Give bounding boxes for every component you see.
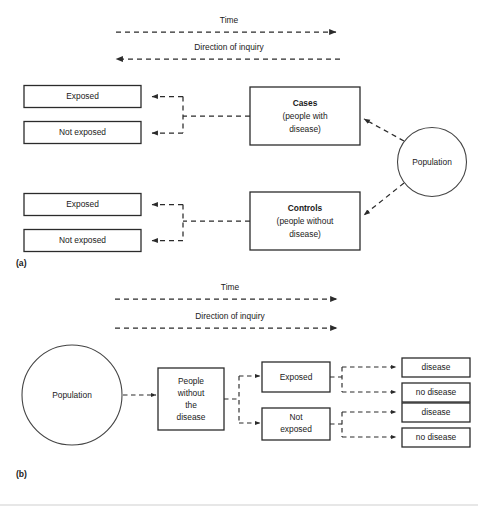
- panel-b-cohort-line1: People: [178, 376, 204, 386]
- figure-container: Time Direction of inquiry Exposed Not ex…: [0, 0, 478, 508]
- panel-a-exposure-label-3: Exposed: [66, 199, 99, 209]
- panel-a-exposure-label-2: Not exposed: [59, 127, 106, 137]
- panel-a-population-label: Population: [412, 157, 452, 167]
- panel-b-outcome-label-3: disease: [422, 407, 451, 417]
- panel-b-exposure-box-not-exposed: Not exposed: [262, 408, 330, 440]
- panel-b-outcome-box-disease-not-exposed: disease: [402, 403, 470, 422]
- panel-b-outcome-box-no-disease-not-exposed: no disease: [402, 428, 470, 447]
- panel-b-cohort-line4: disease: [177, 412, 206, 422]
- panel-a-exposure-box-exposed-top: Exposed: [24, 86, 141, 108]
- panel-a-exposure-label-4: Not exposed: [59, 235, 106, 245]
- panel-b-population-label: Population: [52, 390, 92, 400]
- panel-b-not-exposed-line1: Not: [289, 412, 303, 422]
- panel-a-exposure-box-not-exposed-bottom: Not exposed: [24, 230, 141, 252]
- panel-b-time-label: Time: [221, 282, 240, 292]
- panel-b-inquiry-label: Direction of inquiry: [195, 311, 265, 321]
- panel-b-outcome-box-no-disease-exposed: no disease: [402, 383, 470, 402]
- panel-b-outcome-box-disease-exposed: disease: [402, 358, 470, 377]
- panel-b-outcome-label-2: no disease: [416, 387, 457, 397]
- panel-a-exposure-box-exposed-bottom: Exposed: [24, 194, 141, 216]
- study-design-diagram: Time Direction of inquiry Exposed Not ex…: [0, 0, 478, 508]
- panel-a-exposure-label-1: Exposed: [66, 91, 99, 101]
- panel-a-exposure-box-not-exposed-top: Not exposed: [24, 122, 141, 144]
- panel-a-population-circle: Population: [398, 128, 467, 197]
- panel-b-cohort-line2: without: [177, 388, 205, 398]
- panel-a-controls-line2: (people without: [277, 216, 334, 226]
- panel-b-cohort-box: People without the disease: [158, 368, 224, 430]
- panel-a-time-label: Time: [220, 15, 239, 25]
- panel-b-exposed-label: Exposed: [280, 372, 313, 382]
- panel-a-cases-line2: (people with: [282, 111, 328, 121]
- panel-b-population-circle: Population: [22, 345, 122, 445]
- panel-a-cases-title: Cases: [293, 98, 318, 108]
- panel-a-controls-line3: disease): [289, 229, 321, 239]
- panel-a-group-box-cases: Cases (people with disease): [250, 87, 360, 145]
- panel-b-caption: (b): [16, 469, 27, 479]
- panel-b-outcome-label-4: no disease: [416, 432, 457, 442]
- panel-a-controls-title: Controls: [288, 203, 323, 213]
- panel-b-exposure-box-exposed: Exposed: [262, 362, 330, 392]
- panel-a-caption: (a): [16, 258, 27, 268]
- panel-b-not-exposed-line2: exposed: [280, 424, 312, 434]
- panel-b-cohort-line3: the: [185, 400, 197, 410]
- panel-a-group-box-controls: Controls (people without disease): [250, 192, 360, 250]
- panel-a-cases-line3: disease): [289, 124, 321, 134]
- panel-b-outcome-label-1: disease: [422, 362, 451, 372]
- panel-a-inquiry-label: Direction of inquiry: [194, 42, 264, 52]
